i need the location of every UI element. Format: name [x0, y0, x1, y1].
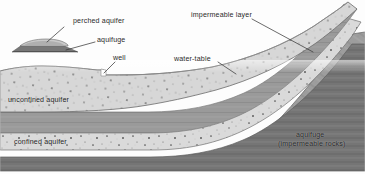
perched-aquifer-inset: [12, 39, 78, 52]
leader-well: [104, 62, 115, 73]
aquifer-cross-section-figure: perched aquifer aquifuge well water-tabl…: [0, 0, 365, 174]
well-notch: [101, 69, 106, 76]
cross-section-drawing: [0, 0, 365, 174]
leader-aquifuge: [66, 42, 95, 50]
